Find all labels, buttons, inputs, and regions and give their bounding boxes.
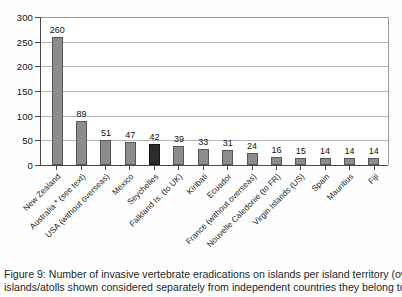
bar-value-label: 47	[125, 130, 135, 140]
bar[interactable]	[100, 140, 111, 165]
bar-slot: 14	[337, 17, 361, 165]
bar[interactable]	[271, 157, 282, 165]
bar[interactable]	[52, 37, 63, 165]
y-axis-tick-label: 200	[17, 61, 33, 72]
bar-value-label: 31	[223, 138, 233, 148]
bar-slot: 89	[69, 17, 93, 165]
y-axis-tick-label: 150	[17, 86, 33, 97]
bar-value-label: 33	[198, 137, 208, 147]
bar-slot: 51	[94, 17, 118, 165]
x-label-slot: Falkland Is. (to UK)	[166, 170, 190, 258]
bar[interactable]	[344, 158, 355, 165]
bar-slot: 31	[216, 17, 240, 165]
figure-caption: Figure 9: Number of invasive vertebrate …	[4, 268, 402, 294]
bar-chart: 050100150200250300 260895147423933312416…	[0, 0, 402, 262]
bar-slot: 42	[142, 17, 166, 165]
y-axis-tick-label: 250	[17, 36, 33, 47]
bar-value-label: 39	[174, 134, 184, 144]
bar-value-label: 14	[344, 146, 354, 156]
bar-slot: 260	[45, 17, 69, 165]
bar[interactable]	[295, 158, 306, 165]
caption-line-1: Figure 9: Number of invasive vertebrate …	[4, 268, 402, 281]
bar[interactable]	[222, 150, 233, 165]
bar[interactable]	[149, 144, 160, 165]
bar-slot: 47	[118, 17, 142, 165]
bar[interactable]	[247, 153, 258, 165]
x-axis-category-label: Spain	[310, 172, 331, 193]
bar-value-label: 14	[369, 146, 379, 156]
bar-slot: 39	[167, 17, 191, 165]
figure-container: 050100150200250300 260895147423933312416…	[0, 0, 402, 297]
x-label-slot: USA (without overseas)	[93, 170, 117, 258]
bar-value-label: 24	[247, 141, 257, 151]
bar-value-label: 15	[296, 146, 306, 156]
bar[interactable]	[76, 121, 87, 165]
y-axis-tick-label: 100	[17, 110, 33, 121]
bar-value-label: 16	[271, 145, 281, 155]
bar-value-label: 51	[101, 128, 111, 138]
bar-value-label: 260	[50, 25, 65, 35]
y-axis-tick-label: 300	[17, 12, 33, 23]
x-label-slot: Mauritius	[337, 170, 361, 258]
bar-slot: 15	[289, 17, 313, 165]
bar[interactable]	[368, 158, 379, 165]
bar-slot: 16	[264, 17, 288, 165]
x-label-slot: Spain	[313, 170, 337, 258]
y-axis-tick-label: 0	[28, 160, 33, 171]
plot-area: 050100150200250300 260895147423933312416…	[40, 17, 388, 166]
bar[interactable]	[320, 158, 331, 165]
x-label-slot: Virgin Islands (US)	[288, 170, 312, 258]
bar-value-label: 14	[320, 146, 330, 156]
bar-value-label: 42	[150, 132, 160, 142]
bar-slot: 24	[240, 17, 264, 165]
y-axis-tick-label: 50	[22, 135, 33, 146]
x-axis-category-label: Fiji	[366, 172, 380, 186]
bar-slot: 14	[313, 17, 337, 165]
bar[interactable]	[125, 142, 136, 165]
bar[interactable]	[198, 149, 209, 165]
bar-value-label: 89	[77, 109, 87, 119]
bar[interactable]	[173, 146, 184, 165]
bars-group: 26089514742393331241615141414	[41, 17, 388, 165]
bar-slot: 33	[191, 17, 215, 165]
x-label-slot: Fiji	[361, 170, 385, 258]
bar-slot: 14	[362, 17, 386, 165]
caption-line-2: islands/atolls shown considered separate…	[4, 281, 402, 294]
x-axis-labels: New ZealandAustralia * (see text)USA (wi…	[40, 170, 388, 258]
